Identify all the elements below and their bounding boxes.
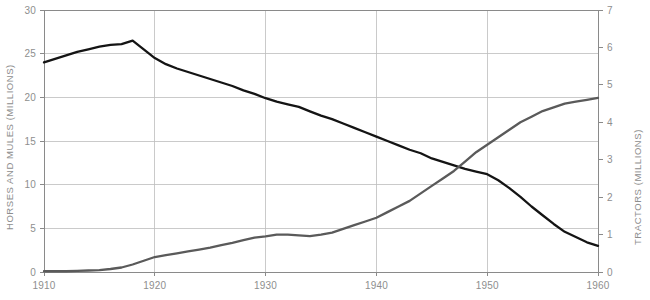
chart-background: [0, 0, 650, 300]
left-tick-label: 30: [24, 5, 36, 16]
right-tick-label: 6: [607, 42, 613, 53]
right-tick-label: 0: [607, 267, 613, 278]
left-tick-label: 0: [30, 267, 36, 278]
left-tick-label: 10: [24, 179, 36, 190]
two-axis-line-chart: 051015202530 01234567 191019201930194019…: [0, 0, 650, 300]
bottom-tick-label: 1960: [586, 280, 609, 291]
bottom-tick-label: 1930: [254, 280, 277, 291]
bottom-tick-label: 1920: [143, 280, 166, 291]
right-axis-title: TRACTORS (MILLIONS): [632, 129, 643, 245]
right-tick-label: 4: [607, 117, 613, 128]
chart-container: 051015202530 01234567 191019201930194019…: [0, 0, 650, 300]
left-tick-label: 15: [24, 136, 36, 147]
right-tick-label: 3: [607, 154, 613, 165]
right-tick-label: 7: [607, 5, 613, 16]
right-tick-label: 1: [607, 229, 613, 240]
right-tick-label: 5: [607, 79, 613, 90]
right-tick-label: 2: [607, 192, 613, 203]
bottom-tick-label: 1910: [32, 280, 55, 291]
left-tick-label: 20: [24, 92, 36, 103]
left-tick-label: 5: [30, 223, 36, 234]
bottom-tick-label: 1940: [365, 280, 388, 291]
bottom-tick-label: 1950: [476, 280, 499, 291]
left-tick-label: 25: [24, 48, 36, 59]
left-axis-title: HORSES AND MULES (MILLIONS): [4, 64, 15, 230]
